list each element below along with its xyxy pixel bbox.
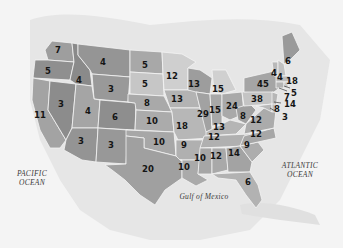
state-label-oh: 24 xyxy=(226,102,238,111)
state-label-wi: 13 xyxy=(188,80,200,89)
electoral-map: 7 5 11 4 3 4 3 4 3 6 3 5 5 8 10 10 20 12… xyxy=(0,0,343,248)
state-label-ks: 10 xyxy=(146,117,158,126)
state-label-ma: 18 xyxy=(286,77,298,86)
state-or xyxy=(33,60,74,80)
state-label-va: 12 xyxy=(250,116,262,125)
state-label-ok: 10 xyxy=(153,138,165,147)
state-label-de: 3 xyxy=(282,113,288,122)
state-label-in: 15 xyxy=(209,106,221,115)
state-label-wa: 7 xyxy=(55,46,61,55)
state-label-nd: 5 xyxy=(142,61,148,70)
state-label-ms: 10 xyxy=(194,154,206,163)
state-label-fl: 6 xyxy=(245,178,251,187)
state-label-ne: 8 xyxy=(144,99,150,108)
state-label-ga: 14 xyxy=(228,149,240,158)
state-label-md: 8 xyxy=(274,105,280,114)
state-label-al: 12 xyxy=(210,152,222,161)
state-label-nh: 4 xyxy=(277,73,283,82)
map-graphic xyxy=(0,0,343,248)
state-label-nc: 12 xyxy=(250,130,262,139)
state-label-sd: 5 xyxy=(142,80,148,89)
gulf-of-mexico-label: Gulf of Mexico xyxy=(179,192,228,201)
atlantic-ocean-label: ATLANTIC OCEAN xyxy=(282,161,318,180)
state-label-wy: 3 xyxy=(108,85,114,94)
state-label-mo: 18 xyxy=(176,122,188,131)
state-label-nm: 3 xyxy=(108,141,114,150)
state-label-ri: 5 xyxy=(291,89,297,98)
state-ct xyxy=(276,82,284,88)
state-label-ny: 45 xyxy=(257,80,269,89)
state-label-pa: 38 xyxy=(251,95,263,104)
state-label-mi: 15 xyxy=(212,85,224,94)
state-label-or: 5 xyxy=(45,67,51,76)
state-label-ky: 13 xyxy=(213,123,225,132)
state-label-sc: 9 xyxy=(244,141,250,150)
state-label-nj: 14 xyxy=(284,100,296,109)
state-label-nv: 3 xyxy=(58,100,64,109)
state-label-il: 29 xyxy=(197,110,209,119)
state-label-ar: 9 xyxy=(181,141,187,150)
state-label-tx: 20 xyxy=(142,165,154,174)
state-label-tn: 12 xyxy=(208,133,220,142)
state-label-la: 10 xyxy=(178,163,190,172)
state-label-mt: 4 xyxy=(100,58,106,67)
state-label-ca: 11 xyxy=(34,111,46,120)
state-label-az: 3 xyxy=(78,137,84,146)
state-label-mn: 12 xyxy=(166,72,178,81)
state-label-wv: 8 xyxy=(240,112,246,121)
state-label-id: 4 xyxy=(76,76,82,85)
state-label-ia: 13 xyxy=(171,95,183,104)
pacific-ocean-label: PACIFIC OCEAN xyxy=(17,169,47,188)
state-label-me: 6 xyxy=(285,57,291,66)
state-label-co: 6 xyxy=(112,113,118,122)
state-label-ut: 4 xyxy=(85,107,91,116)
